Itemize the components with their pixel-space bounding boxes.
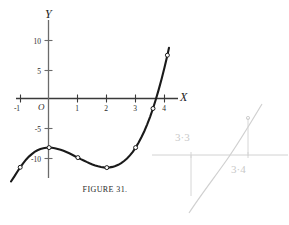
y-axis-label: Y [45, 7, 53, 21]
x-axis-label: X [179, 90, 188, 104]
data-point [165, 53, 169, 57]
data-point [151, 107, 155, 111]
y-tick-label--10: -10 [31, 155, 41, 164]
figure-31: 3·3 3·4 -1 1 2 3 4 10 5 -5 [0, 0, 289, 225]
data-point [134, 146, 138, 150]
figure-caption-text: FIGURE 31. [83, 185, 128, 194]
data-point [18, 165, 22, 169]
origin-label: O [38, 102, 45, 112]
x-tick-label--1: -1 [14, 104, 20, 113]
y-tick-label-10: 10 [34, 37, 42, 46]
x-tick-label-3: 3 [133, 104, 137, 113]
x-tick-label-1: 1 [75, 104, 79, 113]
figure-caption: FIGURE 31. [0, 183, 210, 194]
data-point [76, 156, 80, 160]
x-tick-label-2: 2 [104, 104, 108, 113]
data-point [47, 146, 51, 150]
data-point [105, 166, 109, 170]
x-tick-label-4: 4 [162, 104, 166, 113]
y-tick-label--5: -5 [35, 125, 41, 134]
y-tick-label-5: 5 [37, 67, 41, 76]
